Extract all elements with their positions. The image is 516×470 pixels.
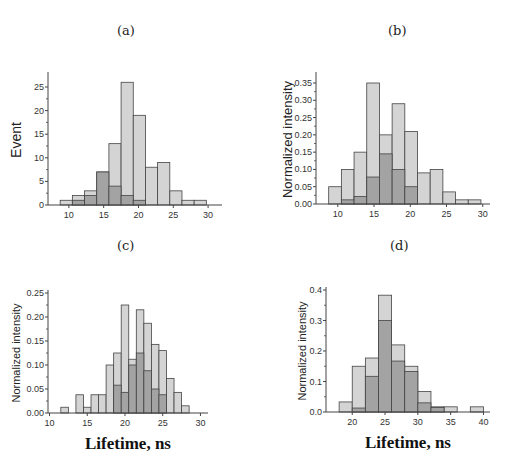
x-tick-label: 10 [333, 209, 343, 219]
light-bar [444, 407, 457, 412]
x-tick-label: 30 [203, 210, 213, 220]
dark-bar [121, 196, 133, 205]
y-tick-label: 0.05 [26, 384, 44, 394]
y-axis-label: Event [8, 122, 24, 158]
light-bar [61, 407, 69, 413]
x-tick-label: 10 [64, 210, 74, 220]
dark-bar [136, 353, 144, 413]
light-bar [468, 200, 481, 204]
dark-bar [354, 196, 367, 204]
x-tick-label: 20 [405, 209, 415, 219]
light-bar [91, 395, 99, 413]
x-tick-label: 30 [413, 417, 423, 427]
light-bar [341, 169, 354, 204]
dark-bar [72, 200, 84, 205]
light-bar [60, 200, 72, 205]
dark-bar [431, 407, 444, 412]
light-bar [121, 82, 133, 205]
dark-bar [341, 200, 354, 204]
y-tick-label: 0.2 [309, 346, 322, 356]
light-bar [194, 200, 206, 205]
dark-bar [418, 403, 431, 412]
dark-bar [114, 385, 122, 413]
x-tick-label: 30 [195, 418, 205, 428]
light-bar [170, 191, 182, 205]
dark-bar [365, 376, 378, 412]
x-tick-label: 40 [478, 417, 488, 427]
light-bar [99, 395, 107, 413]
chart-b: 10152025300.000.050.100.150.200.250.300.… [280, 72, 490, 219]
light-bar [443, 192, 456, 204]
x-tick-label: 15 [99, 210, 109, 220]
y-tick-label: 0.00 [294, 199, 312, 209]
y-tick-label: 0.20 [26, 312, 44, 322]
y-tick-label: 0.30 [294, 95, 312, 105]
dark-bar [85, 196, 97, 205]
y-tick-label: 15 [34, 129, 44, 139]
x-tick-label: 20 [120, 418, 130, 428]
dark-bar [133, 200, 145, 205]
x-tick-label: 30 [478, 209, 488, 219]
dark-bar [367, 177, 380, 204]
light-bar [418, 173, 431, 204]
dark-bar [109, 186, 121, 205]
y-tick-label: 0.00 [26, 408, 44, 418]
dark-bar [405, 371, 418, 412]
dark-bar [151, 389, 159, 413]
light-bar [339, 402, 352, 412]
y-tick-label: 20 [34, 106, 44, 116]
x-axis-label: Lifetime, ns [365, 433, 451, 452]
dark-bar [352, 408, 365, 412]
chart-d: 20253035400.00.10.20.30.4Normalized inte… [296, 285, 490, 452]
chart-a: 10152025300510152025Event [8, 72, 222, 220]
light-bar [182, 406, 190, 413]
x-tick-label: 15 [369, 209, 379, 219]
dark-bar [129, 365, 137, 413]
x-tick-label: 10 [45, 418, 55, 428]
light-bar [145, 167, 157, 205]
dark-bar [405, 187, 418, 204]
y-tick-label: 0.10 [294, 164, 312, 174]
dark-bar [159, 395, 167, 413]
y-tick-label: 0.15 [26, 336, 44, 346]
light-bar [76, 395, 84, 413]
x-tick-label: 35 [446, 417, 456, 427]
dark-bar [121, 392, 129, 413]
y-tick-label: 0.25 [26, 288, 44, 298]
y-tick-label: 0.0 [309, 407, 322, 417]
light-bar [174, 392, 182, 413]
light-bar [83, 407, 91, 413]
y-tick-label: 0.4 [309, 285, 322, 295]
y-axis-label: Normalized intensity [10, 303, 22, 403]
dark-bar [392, 361, 405, 412]
x-tick-label: 25 [168, 210, 178, 220]
y-tick-label: 0.20 [294, 130, 312, 140]
dark-bar [97, 172, 109, 205]
light-bar [106, 365, 114, 413]
y-tick-label: 0.15 [294, 147, 312, 157]
y-tick-label: 0.10 [26, 360, 44, 370]
y-axis-label: Normalized intensity [280, 80, 295, 198]
x-tick-label: 25 [441, 209, 451, 219]
light-bar [182, 200, 194, 205]
chart-c: 10152025300.000.050.100.150.200.25Normal… [10, 288, 208, 453]
light-bar [329, 187, 342, 204]
x-tick-label: 20 [133, 210, 143, 220]
dark-bar [378, 321, 391, 413]
y-tick-label: 0.1 [309, 377, 322, 387]
histogram-figure: 10152025300510152025Event 10152025300.00… [0, 0, 516, 470]
x-tick-label: 25 [380, 417, 390, 427]
light-bar [470, 407, 483, 412]
light-bar [456, 200, 469, 204]
y-tick-label: 5 [39, 176, 44, 186]
light-bar [166, 378, 174, 413]
dark-bar [392, 169, 405, 204]
y-axis-label: Normalized intensity [296, 301, 308, 401]
y-tick-label: 10 [34, 153, 44, 163]
y-tick-label: 0 [39, 200, 44, 210]
dark-bar [144, 371, 152, 413]
light-bar [158, 163, 170, 205]
x-axis-label: Lifetime, ns [85, 434, 171, 453]
dark-bar [379, 154, 392, 204]
y-tick-label: 0.3 [309, 316, 322, 326]
